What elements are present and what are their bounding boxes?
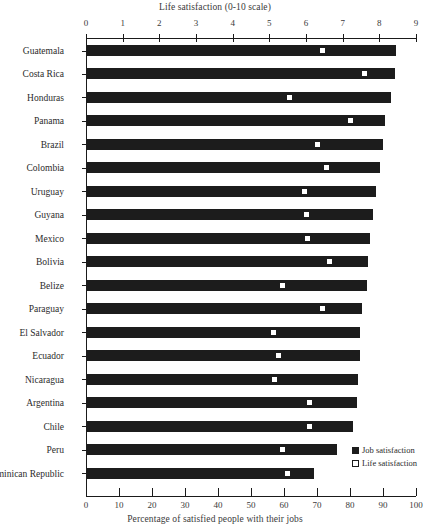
category-label: Guyana [0, 210, 64, 220]
category-label: El Salvador [0, 328, 64, 338]
bar [86, 397, 357, 408]
life-satisfaction-marker [306, 423, 313, 430]
bottom-tick [317, 488, 318, 496]
legend-label: Job satisfaction [362, 444, 415, 457]
bar [86, 468, 314, 479]
top-tick [123, 34, 124, 42]
category-label: Brazil [0, 140, 64, 150]
top-tick-label: 1 [108, 18, 138, 28]
life-satisfaction-marker [279, 282, 286, 289]
top-tick [269, 34, 270, 42]
top-tick-label: 7 [328, 18, 358, 28]
top-tick [196, 34, 197, 42]
bar [86, 139, 383, 150]
category-label: Nicaragua [0, 375, 64, 385]
bar [86, 444, 337, 455]
top-tick-label: 4 [218, 18, 248, 28]
bottom-tick-label: 80 [335, 500, 365, 510]
bottom-tick [119, 488, 120, 496]
life-satisfaction-marker [286, 94, 293, 101]
bottom-tick-label: 60 [269, 500, 299, 510]
plot-area: 0123456789 0102030405060708090100 Guatem… [86, 38, 416, 496]
satisfaction-bar-chart: Life satisfaction (0-10 scale) Percentag… [0, 0, 430, 532]
category-label: Peru [0, 445, 64, 455]
top-axis-title: Life satisfaction (0-10 scale) [0, 2, 430, 12]
life-satisfaction-marker [270, 329, 277, 336]
category-label: Ecuador [0, 351, 64, 361]
bar [86, 374, 358, 385]
bar [86, 68, 395, 79]
category-label: Panama [0, 116, 64, 126]
top-tick-label: 2 [144, 18, 174, 28]
life-satisfaction-marker [319, 47, 326, 54]
legend-item: Job satisfaction [352, 444, 417, 457]
life-satisfaction-marker [301, 188, 308, 195]
life-satisfaction-marker [279, 446, 286, 453]
bar [86, 421, 353, 432]
bar [86, 162, 380, 173]
life-satisfaction-marker [303, 211, 310, 218]
life-satisfaction-marker [275, 352, 282, 359]
legend-item: Life satisfaction [352, 457, 417, 470]
life-satisfaction-marker [347, 117, 354, 124]
top-tick [233, 34, 234, 42]
category-label: Costa Rica [0, 69, 64, 79]
life-satisfaction-marker [326, 258, 333, 265]
bar [86, 327, 360, 338]
bar [86, 45, 396, 56]
chart-legend: Job satisfactionLife satisfaction [352, 444, 417, 470]
bottom-axis-line [86, 496, 416, 497]
bottom-tick-label: 10 [104, 500, 134, 510]
life-satisfaction-marker [284, 470, 291, 477]
bottom-tick-label: 90 [368, 500, 398, 510]
life-satisfaction-marker [314, 141, 321, 148]
bottom-axis-title: Percentage of satisfied people with thei… [0, 514, 430, 524]
bottom-tick [185, 488, 186, 496]
category-label: Guatemala [0, 46, 64, 56]
bar [86, 350, 360, 361]
category-label: Uruguay [0, 187, 64, 197]
category-label: Colombia [0, 163, 64, 173]
life-satisfaction-marker [304, 235, 311, 242]
top-tick [343, 34, 344, 42]
life-satisfaction-marker [271, 376, 278, 383]
bottom-tick-label: 30 [170, 500, 200, 510]
legend-label: Life satisfaction [362, 457, 417, 470]
bottom-tick [350, 488, 351, 496]
top-tick [159, 34, 160, 42]
life-satisfaction-marker [319, 305, 326, 312]
top-tick-label: 0 [71, 18, 101, 28]
bottom-tick-label: 50 [236, 500, 266, 510]
bottom-tick [251, 488, 252, 496]
open-square-icon [352, 460, 359, 467]
bottom-tick [218, 488, 219, 496]
category-label: Bolivia [0, 257, 64, 267]
bottom-tick-label: 70 [302, 500, 332, 510]
category-label: Paraguay [0, 304, 64, 314]
top-tick [86, 34, 87, 42]
top-tick-label: 8 [364, 18, 394, 28]
bar [86, 115, 385, 126]
bottom-tick-label: 0 [71, 500, 101, 510]
bottom-tick [416, 488, 417, 496]
bottom-tick-label: 100 [401, 500, 430, 510]
bottom-tick [152, 488, 153, 496]
bottom-tick-label: 20 [137, 500, 167, 510]
bottom-tick [284, 488, 285, 496]
bar [86, 233, 370, 244]
top-tick [379, 34, 380, 42]
bar [86, 186, 376, 197]
top-tick [306, 34, 307, 42]
top-axis-line [86, 38, 416, 39]
top-tick-label: 5 [254, 18, 284, 28]
top-tick-label: 3 [181, 18, 211, 28]
bottom-tick-label: 40 [203, 500, 233, 510]
category-label: Dominican Republic [0, 469, 64, 479]
category-label: Honduras [0, 93, 64, 103]
top-tick [416, 34, 417, 42]
category-label: Argentina [0, 398, 64, 408]
life-satisfaction-marker [306, 399, 313, 406]
bottom-tick [383, 488, 384, 496]
top-tick-label: 6 [291, 18, 321, 28]
category-label: Chile [0, 422, 64, 432]
